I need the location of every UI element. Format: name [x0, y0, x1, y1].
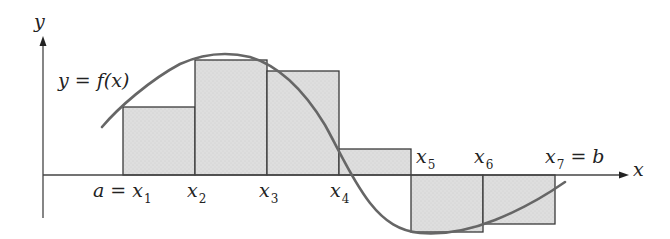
rectangle-3: [267, 71, 339, 175]
partition-label-x6: x6: [474, 147, 493, 166]
rectangle-2: [195, 60, 267, 175]
rectangle-1: [123, 107, 195, 175]
function-label: y = f(x): [58, 71, 129, 90]
partition-label-x3: x3: [259, 181, 278, 200]
partition-label-x1: a = x1: [93, 181, 152, 200]
partition-label-x4: x4: [330, 181, 349, 200]
rectangle-5: [411, 175, 483, 232]
riemann-rectangles: [123, 60, 555, 232]
y-axis-arrow-icon: [40, 36, 47, 46]
riemann-sum-diagram: [0, 0, 670, 239]
partition-label-x2: x2: [187, 181, 206, 200]
x-axis-label: x: [633, 160, 644, 179]
partition-label-x5: x5: [416, 147, 435, 166]
partition-label-x7: x7 = b: [545, 147, 605, 166]
y-axis-label: y: [34, 12, 45, 31]
x-axis-arrow-icon: [619, 172, 629, 179]
rectangle-6: [483, 175, 555, 224]
